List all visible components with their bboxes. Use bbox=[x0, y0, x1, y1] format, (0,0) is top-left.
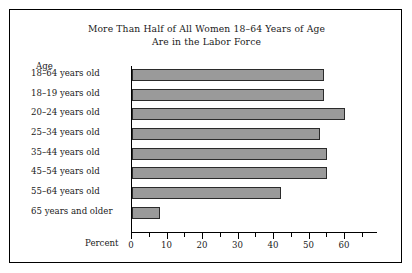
axis-tick-minor bbox=[149, 233, 150, 237]
category-label-text: 18–64 years old bbox=[31, 68, 125, 78]
bar bbox=[132, 187, 281, 199]
category-label-text: 20–24 years old bbox=[31, 107, 125, 117]
category-label-text: 35–44 years old bbox=[31, 147, 125, 157]
axis-tick-major bbox=[167, 233, 168, 239]
bar bbox=[132, 207, 160, 219]
axis-tick-minor bbox=[362, 233, 363, 237]
bar-row: 25–34 years old bbox=[131, 125, 363, 145]
axis-tick-major bbox=[131, 233, 132, 239]
axis-tick-label: 30 bbox=[232, 240, 243, 250]
axis-tick-major bbox=[344, 233, 345, 239]
bar bbox=[132, 69, 324, 81]
bar-row: 20–24 years old bbox=[131, 105, 363, 125]
axis-tick-minor bbox=[255, 233, 256, 237]
axis-tick-major bbox=[238, 233, 239, 239]
value-axis-label: Percent bbox=[85, 238, 118, 248]
axis-tick-label: 20 bbox=[197, 240, 208, 250]
bar-row: 65 years and older bbox=[131, 204, 363, 224]
plot-area: 18–64 years old18–19 years old20–24 year… bbox=[131, 66, 363, 224]
category-label-text: 18–19 years old bbox=[31, 88, 125, 98]
bar-series: 18–64 years old18–19 years old20–24 year… bbox=[131, 66, 363, 224]
chart-title: More Than Half of All Women 18–64 Years … bbox=[10, 23, 403, 48]
axis-tick-label: 0 bbox=[128, 240, 133, 250]
category-label-text: 55–64 years old bbox=[31, 186, 125, 196]
bar-row: 35–44 years old bbox=[131, 145, 363, 165]
chart-title-line-2: Are in the Labor Force bbox=[10, 36, 403, 49]
bar bbox=[132, 167, 327, 179]
axis-tick-minor bbox=[326, 233, 327, 237]
category-axis-line bbox=[131, 232, 377, 233]
category-label-text: 65 years and older bbox=[31, 206, 125, 216]
axis-tick-label: 40 bbox=[268, 240, 279, 250]
bar-row: 18–64 years old bbox=[131, 66, 363, 86]
axis-tick-label: 60 bbox=[339, 240, 350, 250]
axis-tick-minor bbox=[220, 233, 221, 237]
category-label-text: 25–34 years old bbox=[31, 127, 125, 137]
bar-row: 55–64 years old bbox=[131, 184, 363, 204]
bar bbox=[132, 108, 345, 120]
bar-row: 45–54 years old bbox=[131, 164, 363, 184]
axis-tick-label: 50 bbox=[303, 240, 314, 250]
chart-title-line-1: More Than Half of All Women 18–64 Years … bbox=[88, 23, 325, 34]
axis-tick-major bbox=[273, 233, 274, 239]
chart-screenshot: More Than Half of All Women 18–64 Years … bbox=[0, 0, 412, 273]
figure-frame: More Than Half of All Women 18–64 Years … bbox=[9, 9, 402, 263]
bar bbox=[132, 89, 324, 101]
bar bbox=[132, 148, 327, 160]
axis-tick-major bbox=[309, 233, 310, 239]
bar bbox=[132, 128, 320, 140]
bar-row: 18–19 years old bbox=[131, 86, 363, 106]
axis-tick-minor bbox=[184, 233, 185, 237]
axis-tick-label: 10 bbox=[161, 240, 172, 250]
category-label-text: 45–54 years old bbox=[31, 166, 125, 176]
axis-tick-major bbox=[202, 233, 203, 239]
axis-tick-minor bbox=[291, 233, 292, 237]
